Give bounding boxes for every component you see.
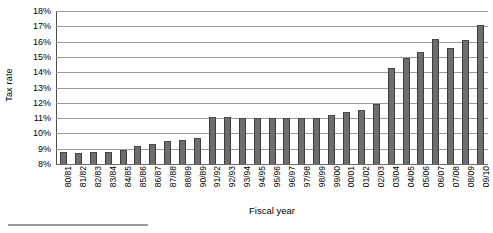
x-axis-tick-label-text: 05/06 — [421, 166, 431, 187]
bar — [358, 110, 365, 164]
bar — [462, 40, 469, 164]
bar — [343, 112, 350, 164]
bar-chart: Tax rate 8%9%10%11%12%13%14%15%16%17%18%… — [0, 0, 493, 233]
y-axis-tick-label: 15% — [33, 52, 51, 62]
bar — [105, 152, 112, 164]
bar — [149, 144, 156, 164]
footer-rule — [8, 224, 148, 226]
x-axis-tick-label-text: 91/92 — [212, 166, 222, 187]
bar — [417, 52, 424, 164]
x-axis-tick-label-text: 06/07 — [436, 166, 446, 187]
y-axis-tick-label: 18% — [33, 6, 51, 16]
bar — [328, 115, 335, 164]
y-axis-tick-label: 14% — [33, 67, 51, 77]
bar — [373, 104, 380, 164]
x-axis-tick-label-text: 81/82 — [78, 166, 88, 187]
bar — [447, 48, 454, 164]
y-axis-tick-label: 11% — [34, 113, 51, 123]
bars-layer — [56, 11, 488, 164]
y-axis-tick-labels: 8%9%10%11%12%13%14%15%16%17%18% — [18, 11, 54, 164]
y-axis-tick-label: 10% — [33, 128, 51, 138]
x-axis-tick-label-text: 90/89 — [198, 166, 208, 187]
x-axis-tick-label-text: 02/03 — [376, 166, 386, 187]
bar — [224, 117, 231, 164]
x-axis-tick-label-text: 87/88 — [168, 166, 178, 187]
bar — [298, 118, 305, 164]
bar — [388, 68, 395, 164]
x-axis-tick-label-text: 83/84 — [108, 166, 118, 187]
x-axis-tick-label-text: 96/97 — [287, 166, 297, 187]
bar — [477, 25, 484, 164]
x-axis-tick-label-text: 93/94 — [242, 166, 252, 187]
y-axis-tick-label: 8% — [38, 159, 51, 169]
plot-area — [56, 11, 488, 164]
bar — [432, 39, 439, 164]
x-axis-tick-labels: 80/8181/8282/8383/8484/8585/8686/8787/88… — [56, 166, 488, 204]
x-axis-tick-label-text: 99/00 — [332, 166, 342, 187]
bar — [283, 118, 290, 164]
x-axis-tick-label-text: 88/89 — [183, 166, 193, 187]
bar — [134, 146, 141, 164]
bar — [254, 118, 261, 164]
y-axis-tick-label: 16% — [33, 37, 51, 47]
x-axis-tick-label-text: 94/95 — [257, 166, 267, 187]
bar — [269, 118, 276, 164]
gridline — [56, 164, 488, 165]
bar — [403, 58, 410, 164]
x-axis-tick-label-text: 80/81 — [63, 166, 73, 187]
bar — [209, 117, 216, 164]
x-axis-tick-label-text: 98/99 — [317, 166, 327, 187]
x-axis-tick-label-text: 97/98 — [302, 166, 312, 187]
y-axis-tick-label: 13% — [33, 83, 51, 93]
x-axis-tick-label: 09/10 — [481, 166, 493, 176]
x-axis-tick-label-text: 92/93 — [227, 166, 237, 187]
y-axis-tick-label: 17% — [33, 21, 51, 31]
x-axis-tick-label-text: 84/85 — [123, 166, 133, 187]
y-axis-tick-label: 9% — [38, 144, 51, 154]
x-axis-tick-label-text: 95/96 — [272, 166, 282, 187]
x-axis-tick-label-text: 03/04 — [391, 166, 401, 187]
x-axis-tick-label-text: 08/09 — [466, 166, 476, 187]
x-axis-tick-label-text: 86/87 — [153, 166, 163, 187]
bar — [164, 141, 171, 164]
bar — [60, 152, 67, 164]
x-axis-tick-label-text: 07/08 — [451, 166, 461, 187]
bar — [194, 138, 201, 164]
bar — [313, 118, 320, 164]
bar — [90, 152, 97, 164]
bar — [75, 153, 82, 164]
y-axis-title-label: Tax rate — [4, 68, 14, 102]
x-axis-tick-label-text: 01/02 — [361, 166, 371, 187]
x-axis-tick-label-text: 04/05 — [406, 166, 416, 187]
x-axis-title: Fiscal year — [56, 205, 488, 216]
bar — [179, 140, 186, 164]
bar — [239, 118, 246, 164]
x-axis-tick-label-text: 00/01 — [346, 166, 356, 187]
x-axis-tick-label-text: 82/83 — [93, 166, 103, 187]
x-axis-tick-label-text: 09/10 — [481, 166, 491, 187]
y-axis-tick-label: 12% — [33, 98, 51, 108]
y-axis-title: Tax rate — [0, 0, 18, 170]
x-axis-tick-label-text: 85/86 — [138, 166, 148, 187]
bar — [120, 150, 127, 164]
